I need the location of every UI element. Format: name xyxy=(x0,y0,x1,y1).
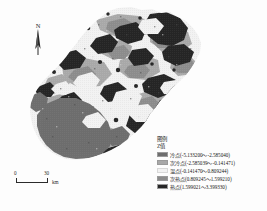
legend-swatch-subcold xyxy=(157,160,168,166)
legend-label-hot: 热点(1.599021～3.399330) xyxy=(170,184,227,190)
legend-item-subhot: 次热点(0.809245～1.599210) xyxy=(157,175,265,183)
scale-bar-labels: 0 30 xyxy=(14,170,76,178)
legend-item-subcold: 次冷点(-2.585039～-0.141471) xyxy=(157,159,265,167)
legend-item-hot: 热点(1.599021～3.399330) xyxy=(157,183,265,191)
legend-swatch-subhot xyxy=(157,176,168,182)
scale-bar-unit-label: km xyxy=(52,179,59,185)
legend-label-warm: 温点(-0.141470～0.809244) xyxy=(170,168,228,174)
legend-title: 图例 xyxy=(157,136,265,143)
scale-bar-min-label: 0 xyxy=(14,170,17,176)
scale-bar-graphic: km xyxy=(14,178,58,185)
north-arrow-needle-icon xyxy=(32,29,44,55)
legend-item-cold: 冷点(-5.133200～-2.585040) xyxy=(157,151,265,159)
legend-label-subhot: 次热点(0.809245～1.599210) xyxy=(170,176,232,182)
scale-bar-line xyxy=(16,182,48,183)
map-figure: N 0 30 km 图例 Z值 冷点(-5.133200～-2.585040) xyxy=(0,0,267,211)
scale-bar-max-label: 30 xyxy=(44,170,49,176)
legend-label-cold: 冷点(-5.133200～-2.585040) xyxy=(170,152,230,158)
legend-swatch-cold xyxy=(157,152,168,158)
scale-bar-tick-right xyxy=(47,178,48,183)
scale-bar: 0 30 km xyxy=(14,170,76,190)
legend: 图例 Z值 冷点(-5.133200～-2.585040) 次冷点(-2.585… xyxy=(157,136,265,191)
legend-subtitle: Z值 xyxy=(157,143,265,150)
legend-swatch-hot xyxy=(157,184,168,190)
legend-items: 冷点(-5.133200～-2.585040) 次冷点(-2.585039～-0… xyxy=(157,151,265,191)
north-arrow: N xyxy=(25,22,51,56)
legend-label-subcold: 次冷点(-2.585039～-0.141471) xyxy=(170,160,235,166)
legend-item-warm: 温点(-0.141470～0.809244) xyxy=(157,167,265,175)
north-arrow-label: N xyxy=(25,22,51,29)
legend-swatch-warm xyxy=(157,168,168,174)
